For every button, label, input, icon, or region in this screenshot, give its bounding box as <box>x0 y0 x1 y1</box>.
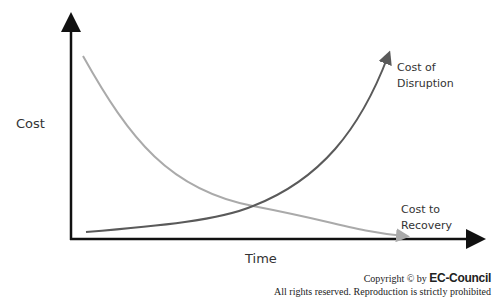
disruption-label-line2: Disruption <box>397 76 454 92</box>
recovery-label-line1: Cost to <box>401 202 452 218</box>
y-axis-label: Cost <box>16 116 45 131</box>
brand-logo-text: EC-Council <box>429 271 491 285</box>
recovery-label-line2: Recovery <box>401 218 452 234</box>
rights-text: All rights reserved. Reproduction is str… <box>274 285 491 298</box>
disruption-label: Cost of Disruption <box>397 60 454 92</box>
x-axis-label: Time <box>245 251 277 266</box>
disruption-label-line1: Cost of <box>397 60 454 76</box>
recovery-label: Cost to Recovery <box>401 202 452 234</box>
copyright-prefix: Copyright © by <box>364 273 430 284</box>
copyright-notice: Copyright © by EC-Council All rights res… <box>274 272 491 298</box>
disruption-curve <box>86 56 388 232</box>
